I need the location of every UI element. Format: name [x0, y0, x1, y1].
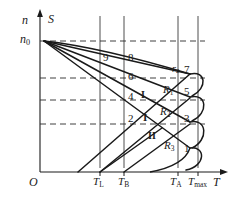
roman-I-lower: I: [143, 112, 147, 123]
region-3: 3: [184, 113, 190, 124]
x-tick-label-T-A: TA: [170, 176, 182, 188]
curve-R2-base: R: [160, 105, 167, 117]
arc-r2: [190, 73, 203, 96]
arc-R2: [190, 122, 204, 148]
region-5: 5: [184, 86, 190, 97]
curve-R3-base: R: [164, 139, 171, 151]
diagram-canvas: [0, 0, 240, 197]
roman-II: II: [148, 131, 156, 141]
x-tick-label-T-B: TB: [118, 176, 129, 188]
y-axis-label: n: [22, 14, 28, 26]
origin-label: O: [29, 176, 38, 188]
region-7: 7: [184, 64, 190, 75]
x-tick-T-max-sub: max: [194, 180, 207, 189]
x-tick-T-A-sub: A: [176, 180, 181, 189]
x-tick-T-L-sub: L: [99, 180, 104, 189]
thermodynamic-region-diagram: n S n0 O T TL TB TA Tmax 9 8 7 6 5 4 3 2…: [0, 0, 240, 197]
curve-R1-base: R: [163, 83, 170, 95]
roman-I-upper: I: [141, 90, 145, 100]
curve-R3-label: R3: [164, 140, 174, 152]
curve-r2-label: r2: [172, 64, 179, 75]
x-tick-label-T-max: Tmax: [188, 176, 207, 188]
region-4: 4: [128, 91, 134, 102]
region-6: 6: [128, 71, 134, 82]
curve-R2-label: R2: [160, 106, 170, 118]
curve-r2-sub: 2: [176, 67, 179, 74]
x-tick-label-T-L: TL: [93, 176, 104, 188]
region-8: 8: [128, 52, 134, 63]
x-axis-ticks: [100, 172, 198, 176]
region-1: 1: [184, 143, 190, 154]
x-tick-T-B-sub: B: [124, 180, 129, 189]
n0-label: n0: [20, 33, 30, 47]
curve-R2-sub: 2: [167, 110, 171, 119]
curve-R1-label: R1: [163, 84, 173, 96]
curve-R1-sub: 1: [170, 88, 174, 97]
y-axis-arrowhead: [37, 9, 43, 17]
branch-line-3: [100, 98, 190, 172]
region-2: 2: [128, 113, 134, 124]
x-axis-label: T: [213, 176, 220, 188]
region-9: 9: [103, 52, 109, 63]
curve-R3-sub: 3: [171, 144, 175, 153]
entropy-axis-label: S: [48, 13, 54, 25]
x-axis-arrowhead: [220, 169, 228, 175]
n0-subscript: 0: [26, 38, 30, 47]
